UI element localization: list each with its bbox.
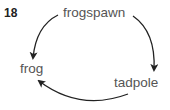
arrow-frogspawn-to-tadpole xyxy=(133,16,154,70)
arrow-tadpole-to-frog xyxy=(39,81,128,101)
arrow-frogspawn-to-frog xyxy=(33,15,58,58)
cycle-arrows xyxy=(0,0,170,110)
